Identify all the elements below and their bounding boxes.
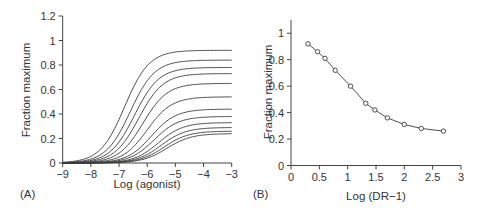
data-point-marker	[364, 101, 368, 105]
panel-a-y-tick-label: 0.8	[40, 59, 55, 71]
panel-a-y-tick-label: 0.2	[40, 133, 55, 145]
figure: −9−8−7−6−5−4−300.20.40.60.811.2 Log (ago…	[0, 0, 483, 212]
concentration-response-curve	[63, 97, 232, 163]
panel-a-curves	[63, 50, 232, 163]
panel-b-y-axis-label: Fraction maximum	[262, 45, 274, 140]
data-point-marker	[323, 56, 327, 60]
panel-b-chart: 00.511.522.5300.20.40.60.81 Log (DR−1) F…	[253, 20, 464, 202]
concentration-response-curve	[63, 74, 232, 163]
panel-a-x-tick-label: −3	[225, 168, 238, 180]
panel-b-x-tick-label: 0	[288, 171, 294, 183]
panel-a-y-tick-label: 0.4	[40, 108, 55, 120]
panel-b-x-tick-label: 3	[458, 171, 464, 183]
data-point-marker	[441, 129, 445, 133]
panel-b-x-axis-label: Log (DR−1)	[346, 190, 406, 202]
panel-a-y-tick-label: 1.2	[40, 10, 55, 22]
data-point-marker	[373, 108, 377, 112]
data-point-marker	[385, 116, 389, 120]
concentration-response-curve	[63, 67, 232, 162]
panel-a-chart: −9−8−7−6−5−4−300.20.40.60.811.2 Log (ago…	[20, 10, 238, 200]
panel-b-x-tick-label: 1.5	[368, 171, 383, 183]
panel-b-x-tick-label: 2	[401, 171, 407, 183]
concentration-response-curve	[63, 50, 232, 162]
panel-a-x-tick-label: −9	[56, 168, 69, 180]
panel-b-x-tick-label: 1	[345, 171, 351, 183]
panel-b-y-tick-label: 1	[278, 27, 284, 39]
panel-a-label: (A)	[20, 188, 36, 200]
data-point-marker	[315, 50, 319, 54]
data-point-marker	[348, 84, 352, 88]
panel-b-line	[306, 42, 446, 134]
panel-a-y-axis-label: Fraction maximum	[20, 43, 32, 138]
data-point-marker	[306, 42, 310, 46]
panel-a-y-tick-label: 0.6	[40, 84, 55, 96]
panel-a-x-axis-label: Log (agonist)	[113, 178, 180, 190]
data-line	[308, 44, 443, 131]
panel-b-x-tick-label: 2.5	[425, 171, 440, 183]
panel-a-y-tick-label: 0	[50, 157, 56, 169]
concentration-response-curve	[63, 60, 232, 162]
panel-b-y-tick-label: 0	[278, 160, 284, 172]
data-point-marker	[333, 68, 337, 72]
data-point-marker	[402, 122, 406, 126]
panel-a-x-tick-label: −8	[85, 168, 98, 180]
panel-b-x-tick-label: 0.5	[312, 171, 327, 183]
panel-a-y-tick-label: 1	[50, 35, 56, 47]
data-point-marker	[419, 126, 423, 130]
panel-a-x-tick-label: −4	[197, 168, 210, 180]
concentration-response-curve	[63, 134, 232, 163]
panel-b-label: (B)	[253, 188, 269, 200]
panel-a-axes: −9−8−7−6−5−4−300.20.40.60.811.2	[40, 10, 238, 180]
